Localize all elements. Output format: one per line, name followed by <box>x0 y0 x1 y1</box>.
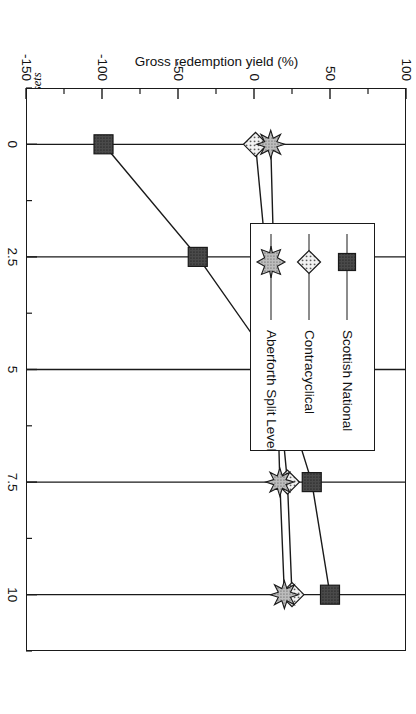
plot-area: 100500-50-100-15002.557.510 Gross redemp… <box>0 32 416 683</box>
chart-canvas: 100500-50-100-15002.557.510 Gross redemp… <box>0 32 416 683</box>
square-marker-icon <box>333 247 363 277</box>
legend-label: Contracyclical <box>302 330 317 414</box>
legend-entry-contracyclical: Contracyclical <box>289 224 330 452</box>
legend-entry-aberforth-split-level: Aberforth Split Level <box>251 224 292 452</box>
chart-legend: Scottish National Contracyclical Aberfor… <box>250 223 375 451</box>
star-marker-icon <box>256 246 288 278</box>
data-point-star <box>270 580 298 608</box>
data-point-square <box>188 247 207 266</box>
legend-label: Scottish National <box>340 330 355 431</box>
diamond-marker-icon <box>295 247 325 277</box>
legend-label: Aberforth Split Level <box>264 330 279 452</box>
data-point-star <box>266 468 294 496</box>
data-point-square <box>321 585 340 604</box>
data-point-square <box>302 472 321 491</box>
data-point-square <box>94 134 113 153</box>
legend-entry-scottish-national: Scottish National <box>327 224 368 452</box>
data-point-star <box>257 130 285 158</box>
